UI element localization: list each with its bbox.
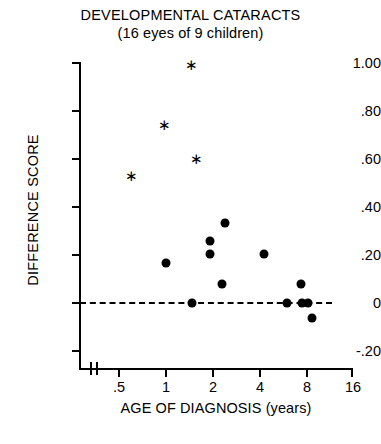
data-point-dot: [220, 219, 229, 228]
x-axis-tick-label: 8: [287, 379, 327, 395]
x-axis-line: [79, 368, 353, 370]
x-axis-tick-label: 4: [240, 379, 280, 395]
data-point-dot: [282, 299, 291, 308]
zero-reference-line: [80, 302, 332, 304]
figure-scatter-plot: DEVELOPMENTAL CATARACTS (16 eyes of 9 ch…: [0, 0, 381, 444]
data-point-asterisk: ∗: [124, 169, 138, 183]
data-point-dot: [296, 279, 305, 288]
y-axis-tick: [72, 110, 81, 112]
data-point-asterisk: ∗: [158, 118, 172, 132]
x-axis-tick-label: 2: [193, 379, 233, 395]
data-point-dot: [205, 249, 214, 258]
y-axis-tick-label: .60: [315, 152, 381, 166]
data-point-dot: [260, 249, 269, 258]
data-point-asterisk: ∗: [189, 152, 203, 166]
x-axis-tick-label: 1: [146, 379, 186, 395]
y-axis-tick: [72, 254, 81, 256]
axis-break-mark-icon: [96, 362, 98, 375]
x-axis-tick-label: 16: [333, 379, 373, 395]
y-axis-tick-label: .40: [315, 200, 381, 214]
x-axis-tick: [306, 368, 308, 377]
y-axis-tick: [72, 350, 81, 352]
x-axis-tick-label: .5: [99, 379, 139, 395]
x-axis-tick: [259, 368, 261, 377]
y-axis-tick-label: -.20: [315, 344, 381, 358]
data-point-asterisk: ∗: [185, 58, 199, 72]
data-point-dot: [187, 299, 196, 308]
plot-area: 1.00 .80 .60 .40 .20 0 -.20 .5 1 2 4 8 1…: [0, 0, 381, 444]
x-axis-tick: [351, 368, 353, 377]
y-axis-tick: [72, 206, 81, 208]
data-point-dot: [307, 314, 316, 323]
x-axis-title: AGE OF DIAGNOSIS (years): [79, 400, 353, 416]
y-axis-tick: [72, 158, 81, 160]
y-axis-title: DIFFERENCE SCORE: [25, 115, 41, 305]
y-axis-tick: [72, 62, 81, 64]
y-axis-tick-label: .80: [315, 104, 381, 118]
data-point-dot: [218, 279, 227, 288]
data-point-dot: [304, 299, 313, 308]
y-axis-tick-label: .20: [315, 248, 381, 262]
data-point-dot: [161, 259, 170, 268]
x-axis-tick: [165, 368, 167, 377]
y-axis-tick-label: 1.00: [315, 56, 381, 70]
data-point-dot: [205, 237, 214, 246]
axis-break-mark-icon: [90, 362, 92, 375]
x-axis-tick: [118, 368, 120, 377]
x-axis-tick: [212, 368, 214, 377]
